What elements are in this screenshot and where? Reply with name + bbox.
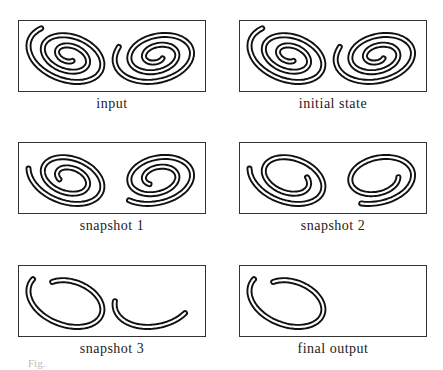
spiral-stroke bbox=[250, 279, 324, 327]
spiral-stroke bbox=[336, 35, 413, 82]
panel-caption: initial state bbox=[239, 96, 427, 112]
spiral-stroke bbox=[29, 279, 103, 327]
spiral-stroke bbox=[115, 301, 185, 327]
panel-caption: snapshot 1 bbox=[18, 218, 206, 234]
spiral-stroke bbox=[29, 279, 103, 327]
right-spiral bbox=[115, 35, 192, 82]
spiral-pair-drawing bbox=[240, 143, 426, 213]
panel-frame bbox=[239, 265, 427, 337]
right-spiral bbox=[115, 301, 185, 327]
spiral-pair-drawing bbox=[240, 266, 426, 336]
left-spiral bbox=[250, 279, 324, 327]
spiral-stroke bbox=[250, 157, 324, 204]
left-spiral bbox=[250, 157, 324, 204]
panel-frame bbox=[18, 142, 206, 214]
spiral-pair-drawing bbox=[19, 143, 205, 213]
left-spiral bbox=[29, 157, 103, 204]
left-spiral bbox=[29, 279, 103, 327]
left-spiral bbox=[29, 28, 103, 82]
spiral-stroke bbox=[250, 28, 324, 82]
figure-footer-text: Fig. bbox=[28, 357, 45, 369]
left-spiral bbox=[250, 28, 324, 82]
spiral-stroke bbox=[115, 35, 192, 82]
panel-frame bbox=[239, 20, 427, 92]
panel-caption: final output bbox=[239, 341, 427, 357]
right-spiral bbox=[129, 157, 192, 204]
panel-caption: input bbox=[18, 96, 206, 112]
spiral-stroke bbox=[29, 28, 103, 82]
panel-frame bbox=[239, 142, 427, 214]
panel-caption: snapshot 2 bbox=[239, 218, 427, 234]
spiral-pair-drawing bbox=[240, 21, 426, 91]
spiral-stroke bbox=[250, 279, 324, 327]
panel-frame bbox=[18, 20, 206, 92]
spiral-stroke bbox=[29, 157, 103, 204]
right-spiral bbox=[350, 157, 413, 204]
right-spiral bbox=[336, 35, 413, 82]
panel-caption: snapshot 3 bbox=[18, 341, 206, 357]
panel-frame bbox=[18, 265, 206, 337]
spiral-pair-drawing bbox=[19, 21, 205, 91]
spiral-pair-drawing bbox=[19, 266, 205, 336]
